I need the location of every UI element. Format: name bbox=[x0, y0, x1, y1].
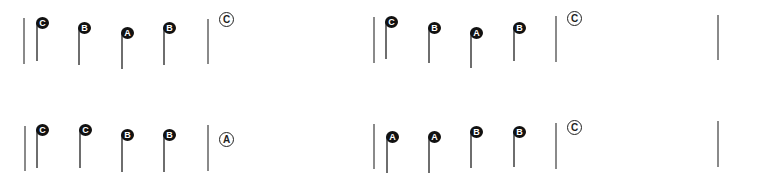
bar-line bbox=[207, 125, 209, 171]
bar-line bbox=[717, 121, 719, 167]
note-head: B bbox=[163, 129, 176, 141]
note-head: B bbox=[470, 126, 483, 138]
bar-line bbox=[207, 19, 209, 64]
bar-line bbox=[23, 18, 25, 64]
note-stem bbox=[79, 130, 81, 168]
note-stem bbox=[470, 132, 472, 168]
answer-circled-letter: C bbox=[567, 120, 582, 135]
note-stem bbox=[428, 137, 430, 173]
note-stem bbox=[513, 28, 515, 61]
answer-circled-letter: C bbox=[219, 12, 234, 27]
note-head: B bbox=[513, 126, 526, 138]
note-head: A bbox=[121, 27, 134, 39]
bar-line bbox=[24, 126, 26, 171]
note-head: B bbox=[121, 129, 134, 141]
note-stem bbox=[163, 28, 165, 65]
bar-line bbox=[373, 124, 375, 169]
note-stem bbox=[36, 130, 38, 168]
bar-line bbox=[373, 17, 375, 63]
note-stem bbox=[121, 33, 123, 69]
note-stem bbox=[121, 135, 123, 172]
note-stem bbox=[428, 28, 430, 63]
note-stem bbox=[513, 132, 515, 167]
bar-line bbox=[717, 15, 719, 60]
note-stem bbox=[163, 135, 165, 172]
answer-circled-letter: A bbox=[219, 132, 234, 147]
bar-line bbox=[555, 16, 557, 62]
note-head: B bbox=[78, 22, 91, 34]
note-head: C bbox=[36, 124, 49, 136]
note-stem bbox=[386, 137, 388, 173]
note-stem bbox=[78, 28, 80, 65]
bar-line bbox=[555, 123, 557, 169]
note-head: A bbox=[386, 131, 399, 143]
note-head: C bbox=[36, 17, 49, 29]
note-head: C bbox=[385, 16, 398, 28]
note-stem bbox=[385, 22, 387, 59]
note-head: B bbox=[428, 22, 441, 34]
note-stem bbox=[470, 33, 472, 68]
note-head: C bbox=[79, 124, 92, 136]
note-head: B bbox=[163, 22, 176, 34]
note-stem bbox=[36, 23, 38, 61]
answer-circled-letter: C bbox=[567, 11, 582, 26]
note-head: A bbox=[470, 27, 483, 39]
note-head: B bbox=[513, 22, 526, 34]
note-head: A bbox=[428, 131, 441, 143]
